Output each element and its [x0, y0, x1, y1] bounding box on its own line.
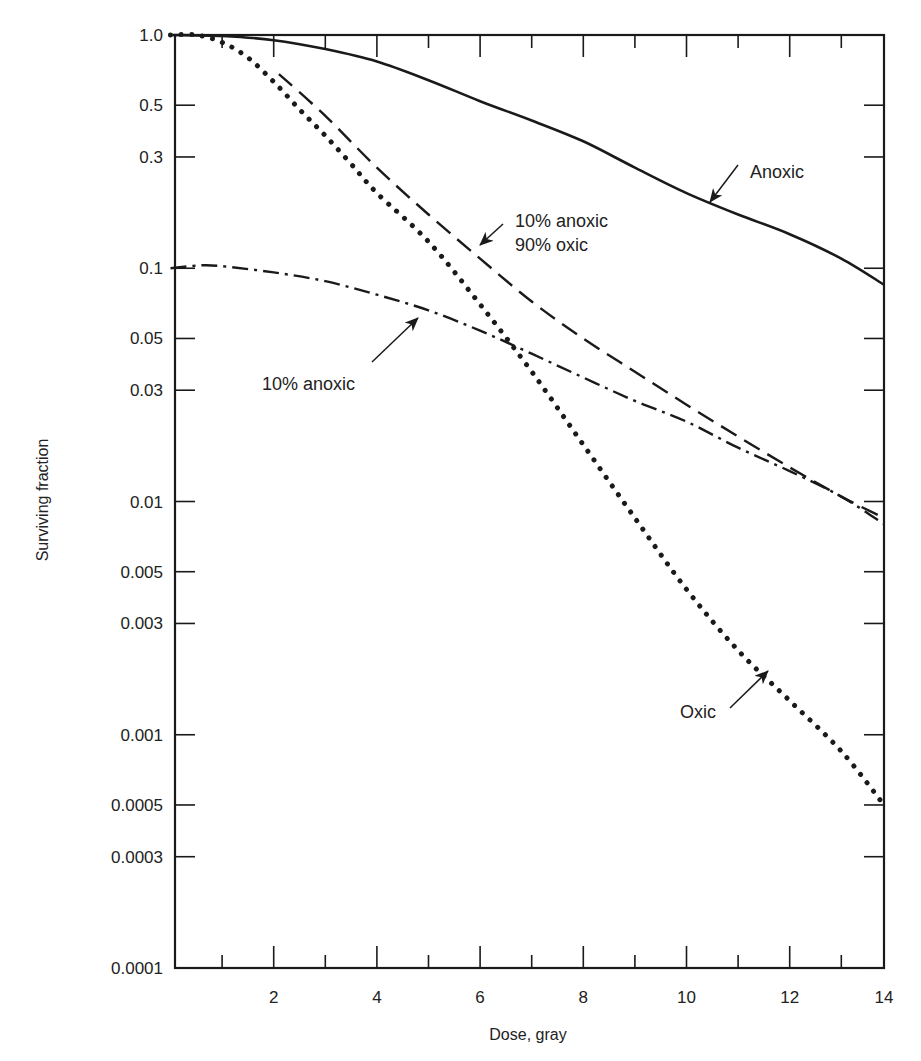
y-tick-label: 0.001 [120, 726, 163, 745]
annotation-arrow-icon [730, 671, 768, 708]
y-tick-label: 0.0005 [111, 796, 163, 815]
x-tick-label: 4 [372, 988, 381, 1007]
y-tick-label: 0.01 [130, 493, 163, 512]
survival-curve-chart: 2468101214 1.00.50.30.10.050.030.010.005… [0, 0, 921, 1061]
x-tick-label: 8 [579, 988, 588, 1007]
y-tick-label: 0.0003 [111, 848, 163, 867]
y-tick-label: 0.1 [139, 259, 163, 278]
y-tick-label: 0.5 [139, 96, 163, 115]
annotation-arrow-icon [372, 318, 418, 362]
y-tick-label: 0.003 [120, 614, 163, 633]
series-10-anoxic-curve [171, 265, 885, 524]
y-tick-label: 0.03 [130, 381, 163, 400]
y-axis-title: Surviving fraction [34, 439, 51, 562]
annotation-arrow-icon [710, 165, 738, 202]
x-tick-label: 14 [875, 988, 894, 1007]
annotation-label: 10% anoxic [515, 211, 608, 231]
y-tick-label: 0.005 [120, 563, 163, 582]
x-tick-label: 12 [780, 988, 799, 1007]
annotation-label: 90% oxic [515, 235, 588, 255]
y-tick-label: 0.0001 [111, 959, 163, 978]
annotation-layer: Anoxic10% anoxic90% oxic10% anoxicOxic [262, 162, 804, 722]
y-tick-label: 0.3 [139, 148, 163, 167]
x-tick-label: 10 [677, 988, 696, 1007]
annotation-label: 10% anoxic [262, 374, 355, 394]
x-tick-label: 6 [475, 988, 484, 1007]
series-layer [171, 34, 885, 805]
x-axis-title: Dose, gray [489, 1026, 566, 1043]
annotation-arrow-icon [480, 224, 503, 245]
x-tick-label: 2 [269, 988, 278, 1007]
series-oxic-curve [171, 34, 885, 805]
y-tick-label: 0.05 [130, 329, 163, 348]
annotation-label: Oxic [680, 702, 716, 722]
annotation-label: Anoxic [750, 162, 804, 182]
y-tick-label: 1.0 [139, 26, 163, 45]
